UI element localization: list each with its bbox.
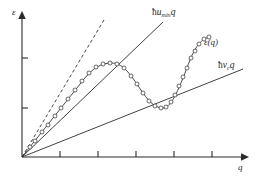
- curve-label: ε(q): [204, 38, 218, 47]
- data-marker: [40, 130, 44, 134]
- axes-group: [18, 11, 249, 161]
- data-marker: [177, 84, 181, 88]
- data-marker: [197, 42, 201, 46]
- data-marker: [59, 106, 63, 110]
- y-axis-label-text: ε: [12, 7, 16, 17]
- data-marker: [159, 106, 163, 110]
- data-marker: [66, 97, 70, 101]
- data-marker: [164, 105, 168, 109]
- x-axis-ticks: [60, 151, 212, 157]
- data-marker: [173, 93, 177, 97]
- data-marker: [108, 61, 112, 65]
- data-markers-group: [28, 35, 211, 149]
- data-marker: [87, 71, 91, 75]
- data-marker: [185, 66, 189, 70]
- data-marker: [141, 91, 145, 95]
- y-axis-arrowhead: [18, 11, 26, 19]
- data-marker: [101, 62, 105, 66]
- data-marker: [122, 66, 126, 70]
- u-min-line-label: ħuminq: [152, 8, 175, 18]
- data-marker: [147, 99, 151, 103]
- u-min-subscript: min: [162, 12, 171, 18]
- phonon-tangent-dashed-line: [22, 20, 104, 157]
- data-marker: [115, 62, 119, 66]
- data-marker: [33, 139, 37, 143]
- y-axis-label: ε: [12, 8, 16, 17]
- plot-canvas: [0, 0, 261, 179]
- dispersion-curve: [22, 37, 209, 157]
- x-axis-label-text: q: [238, 162, 243, 172]
- data-marker: [80, 79, 84, 83]
- x-axis-label: q: [238, 163, 243, 172]
- data-marker: [73, 88, 77, 92]
- data-marker: [153, 104, 157, 108]
- v-c-ray-line: [22, 69, 243, 157]
- data-marker: [129, 74, 133, 78]
- data-marker: [169, 100, 173, 104]
- y-axis-ticks: [22, 58, 28, 108]
- data-marker: [53, 114, 57, 118]
- data-marker: [28, 145, 32, 149]
- v-c-line-label: ħvcq: [218, 61, 234, 71]
- data-marker: [193, 49, 197, 53]
- data-marker: [135, 82, 139, 86]
- data-marker: [189, 56, 193, 60]
- excitation-spectrum-figure: ε q ħuminq ħvcq ε(q): [0, 0, 261, 179]
- data-marker: [46, 123, 50, 127]
- u-min-ray-line: [22, 22, 163, 157]
- data-marker: [181, 75, 185, 79]
- u-min-variable: q: [171, 7, 176, 17]
- x-axis-arrowhead: [241, 153, 249, 161]
- v-c-variable: q: [230, 60, 235, 70]
- curve-close-paren: ): [215, 37, 218, 47]
- data-marker: [94, 65, 98, 69]
